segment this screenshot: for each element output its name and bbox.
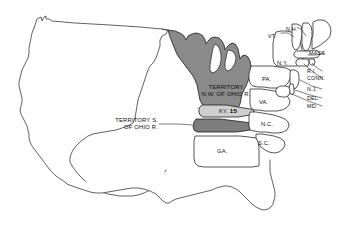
territory-s-ohio-region bbox=[193, 119, 250, 132]
historical-us-map: TERRITORY N.W. OF OHIO R. TERRITORY S. O… bbox=[0, 0, 346, 227]
label-territory-nw-ohio: TERRITORY N.W. OF OHIO R. bbox=[190, 84, 262, 98]
rhode-island-region bbox=[309, 59, 315, 65]
label-new-jersey: N.J. bbox=[307, 86, 317, 92]
label-territory-nw-ohio-line2: N.W. OF OHIO R. bbox=[190, 91, 262, 98]
maryland-region bbox=[276, 86, 290, 97]
label-kentucky-statehood-number: 15 bbox=[230, 107, 237, 114]
label-territory-nw-ohio-line1: TERRITORY bbox=[190, 84, 262, 91]
label-kentucky: KY. 15 bbox=[219, 108, 237, 114]
label-connecticut: CONN. bbox=[307, 75, 325, 81]
label-new-hampshire: N.H. bbox=[286, 26, 297, 32]
label-rhode-island: R.I. bbox=[307, 68, 316, 74]
label-maryland: MD. bbox=[307, 103, 317, 109]
new-hampshire-region bbox=[302, 23, 312, 51]
label-pennsylvania: PA. bbox=[262, 76, 271, 82]
map-graphic bbox=[0, 0, 346, 227]
label-georgia: GA. bbox=[217, 148, 227, 154]
label-territory-s-ohio: TERRITORY S. OF OHIO R. bbox=[88, 117, 158, 131]
label-territory-s-ohio-line1: TERRITORY S. bbox=[88, 117, 158, 124]
label-delaware: DEL. bbox=[307, 95, 320, 101]
leader-line-territory-s bbox=[159, 124, 192, 125]
label-south-carolina: S.C. bbox=[258, 140, 270, 146]
territory-nw-ohio-region bbox=[168, 30, 251, 110]
label-territory-s-ohio-line2: OF OHIO R. bbox=[88, 124, 158, 131]
label-kentucky-text: KY. bbox=[219, 108, 228, 114]
label-north-carolina: N.C. bbox=[261, 121, 273, 127]
connecticut-region bbox=[296, 59, 309, 66]
label-massachusetts: MASS. bbox=[309, 50, 327, 56]
label-vermont: VT. bbox=[268, 33, 276, 39]
label-new-york: N.Y. bbox=[277, 60, 288, 66]
maine-district-region bbox=[312, 20, 331, 49]
label-virginia: VA. bbox=[259, 99, 268, 105]
